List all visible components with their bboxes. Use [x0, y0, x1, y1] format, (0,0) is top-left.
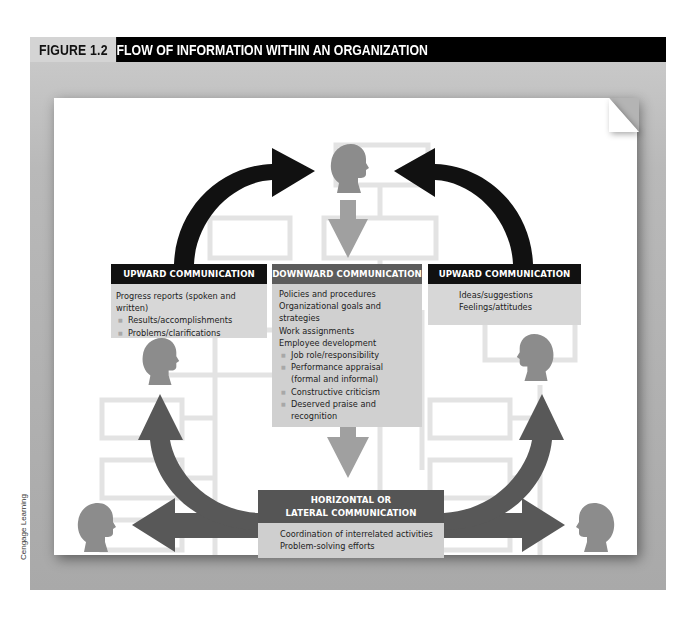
upward-arrow-right	[394, 148, 533, 264]
downward-communication-box: DOWNWARD COMMUNICATION Policies and proc…	[272, 264, 422, 427]
upward-communication-box-left: UPWARD COMMUNICATION Progress reports (s…	[111, 264, 267, 338]
list-item: Deserved praise and recognition	[279, 398, 416, 422]
list-item: Ideas/suggestions	[459, 289, 575, 301]
upward-arrow-left	[174, 148, 315, 264]
downward-arrow-bottom	[327, 420, 369, 478]
list-item: Feelings/attitudes	[459, 301, 575, 313]
box-heading: DOWNWARD COMMUNICATION	[272, 264, 422, 284]
box-body: Policies and procedures Organizational g…	[272, 284, 422, 427]
box-heading-line: LATERAL COMMUNICATION	[258, 507, 444, 520]
head-bottom-left-icon	[78, 503, 116, 552]
list-item: Problem-solving efforts	[280, 540, 436, 552]
list-item: Progress reports (spoken and written)	[116, 290, 262, 314]
list-item: Results/accomplishments	[116, 314, 262, 326]
upward-communication-box-right: UPWARD COMMUNICATION Ideas/suggestions F…	[428, 264, 581, 325]
list-item: Work assignments	[279, 325, 416, 337]
head-bottom-right-icon	[576, 503, 614, 552]
box-body: Coordination of interrelated activities …	[258, 523, 444, 558]
list-item: Job role/responsibility	[279, 349, 416, 361]
list-item: Problems/clarifications	[116, 327, 262, 339]
lateral-communication-box: HORIZONTAL OR LATERAL COMMUNICATION Coor…	[258, 490, 444, 558]
list-item: Organizational goals and strategies	[279, 300, 416, 324]
downward-arrow-top	[328, 200, 368, 258]
list-item-continuation: (formal and informal)	[279, 373, 416, 385]
list-item: Constructive criticism	[279, 386, 416, 398]
head-right-mid-icon	[517, 334, 554, 381]
box-body: Progress reports (spoken and written) Re…	[111, 284, 267, 338]
box-heading: HORIZONTAL OR LATERAL COMMUNICATION	[258, 490, 444, 523]
head-left-mid-icon	[143, 338, 180, 385]
list-item: Coordination of interrelated activities	[280, 528, 436, 540]
lateral-up-arrow-left	[138, 394, 258, 530]
box-body: Ideas/suggestions Feelings/attitudes	[428, 284, 581, 325]
box-heading: UPWARD COMMUNICATION	[428, 264, 581, 284]
list-item: Performance appraisal	[279, 361, 416, 373]
list-item: Employee development	[279, 337, 416, 349]
box-heading: UPWARD COMMUNICATION	[111, 264, 267, 284]
list-item: Policies and procedures	[279, 288, 416, 300]
box-heading-line: HORIZONTAL OR	[258, 494, 444, 507]
